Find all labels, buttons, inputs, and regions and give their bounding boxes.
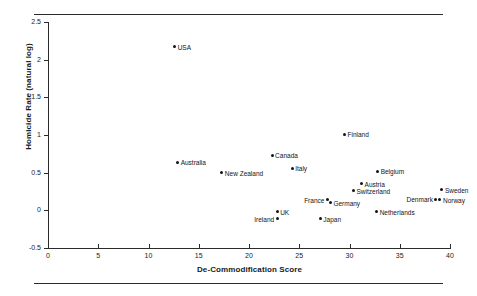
x-tick-label: 40 xyxy=(435,252,465,260)
data-point-label: Switzerland xyxy=(357,187,391,194)
x-tick-label: 20 xyxy=(234,252,264,260)
y-tick-label: 0.5 xyxy=(31,169,41,177)
data-point-label: Belgium xyxy=(381,168,404,175)
y-tick-label: 1.5 xyxy=(31,93,41,101)
y-tick-label: 2 xyxy=(37,56,41,64)
y-tick-label: -0.5 xyxy=(29,244,41,252)
data-point-label: Netherlands xyxy=(380,208,415,215)
data-point-label: Japan xyxy=(323,215,341,222)
x-axis-title: De-Commodification Score xyxy=(48,265,451,274)
x-tick-label: 10 xyxy=(134,252,164,260)
data-point-label: Finland xyxy=(347,131,368,138)
data-point-label: Italy xyxy=(295,165,307,172)
header-rule xyxy=(34,14,443,15)
data-point xyxy=(319,217,322,220)
data-point xyxy=(376,170,379,173)
data-point xyxy=(276,217,279,220)
x-tick-label: 35 xyxy=(385,252,415,260)
data-point xyxy=(176,161,179,164)
data-point xyxy=(343,133,346,136)
data-point-label: USA xyxy=(178,43,191,50)
footer-rule xyxy=(34,283,443,284)
data-point-label: Canada xyxy=(275,152,298,159)
x-tick-label: 0 xyxy=(33,252,63,260)
y-tick-label: 0 xyxy=(37,206,41,214)
x-tick-mark xyxy=(450,244,451,249)
y-tick-label: 1 xyxy=(37,131,41,139)
data-point-label: New Zealand xyxy=(225,169,263,176)
x-tick-label: 5 xyxy=(83,252,113,260)
x-tick-label: 25 xyxy=(284,252,314,260)
y-tick-label: 2.5 xyxy=(31,18,41,26)
data-point-label: Australia xyxy=(181,159,206,166)
data-point-label: Denmark xyxy=(407,196,433,203)
data-point-label: France xyxy=(304,196,324,203)
data-point-label: UK xyxy=(280,208,289,215)
data-point-label: Sweden xyxy=(445,186,469,193)
x-tick-label: 30 xyxy=(335,252,365,260)
x-tick-label: 15 xyxy=(184,252,214,260)
data-point-label: Germany xyxy=(333,199,360,206)
data-point-label: Ireland xyxy=(254,215,274,222)
data-point xyxy=(291,167,294,170)
data-point-label: Norway xyxy=(443,196,465,203)
data-point xyxy=(271,154,274,157)
scatter-plot-figure: Homicide Rate (natural log) De-Commodifi… xyxy=(0,0,477,296)
